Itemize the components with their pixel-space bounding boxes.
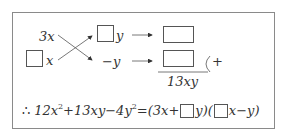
answer-box-middle[interactable] — [97, 25, 114, 42]
answer-box-left[interactable] — [26, 50, 43, 67]
conclusion-line: ∴ 12x2+13xy−4y2=(3x+y)(x−y) — [22, 103, 259, 118]
answer-box-factor1[interactable] — [180, 104, 194, 118]
plus-sign: + — [212, 55, 223, 68]
right-top-var: y — [116, 29, 123, 42]
rhs-factor2-suffix: x−y) — [229, 103, 260, 118]
answer-box-product-bottom[interactable] — [163, 50, 194, 67]
right-bottom-term: −y — [102, 55, 120, 68]
rhs-factor1-suffix: y)( — [195, 103, 213, 118]
rhs-factor1-prefix: (3x+ — [148, 103, 180, 118]
left-top-term: 3x — [39, 30, 55, 43]
equals-sign: = — [137, 103, 148, 118]
lhs-term1: 12x — [34, 103, 58, 118]
therefore-symbol: ∴ — [22, 103, 30, 118]
left-bottom-var: x — [46, 54, 53, 67]
sum-label: 13xy — [167, 75, 198, 88]
answer-box-product-top[interactable] — [163, 26, 194, 43]
lhs-term2: +13xy−4y — [63, 103, 132, 118]
answer-box-factor2[interactable] — [214, 104, 228, 118]
